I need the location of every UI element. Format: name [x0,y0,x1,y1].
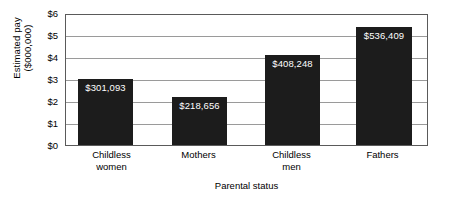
bar-mothers[interactable]: $218,656 [172,97,227,145]
x-tick-label-fathers: Fathers [336,149,429,161]
y-tick-label-3: $3 [30,75,58,85]
y-tick-label-2: $2 [30,97,58,107]
y-axis-title-line-1: Estimated pay [11,17,23,79]
y-tick-label-1: $1 [30,119,58,129]
bar-value-mothers: $218,656 [172,100,227,111]
bar-value-childless-men: $408,248 [265,58,320,69]
y-tick-label-6: $6 [30,9,58,19]
bar-value-fathers: $536,409 [356,30,412,41]
plot-area: $301,093 $218,656 $408,248 $536,409 [65,14,428,146]
x-tick-label-childless-women-line-1: Childless [65,149,158,161]
x-tick-label-mothers-line-1: Mothers [152,149,245,161]
bar-childless-men[interactable]: $408,248 [265,55,320,145]
y-tick-label-5: $5 [30,31,58,41]
x-tick-label-mothers: Mothers [152,149,245,161]
x-tick-label-childless-men: Childless men [245,149,338,173]
x-axis-title: Parental status [65,180,428,192]
bar-chart-figure: Estimated pay ($000,000) $0 $1 $2 $3 $4 … [0,0,450,207]
y-tick-label-0: $0 [30,141,58,151]
bar-value-childless-women: $301,093 [78,82,133,93]
x-tick-label-childless-women: Childless women [65,149,158,173]
x-axis-tick-labels: Childless women Mothers Childless men Fa… [65,149,428,179]
bars-layer: $301,093 $218,656 $408,248 $536,409 [66,15,427,145]
bar-childless-women[interactable]: $301,093 [78,79,133,145]
x-tick-label-childless-women-line-2: women [65,161,158,173]
x-tick-label-childless-men-line-1: Childless [245,149,338,161]
y-axis-tick-labels: $0 $1 $2 $3 $4 $5 $6 [30,0,58,207]
x-tick-label-fathers-line-1: Fathers [336,149,429,161]
bar-fathers[interactable]: $536,409 [356,27,412,145]
x-tick-label-childless-men-line-2: men [245,161,338,173]
y-tick-label-4: $4 [30,53,58,63]
